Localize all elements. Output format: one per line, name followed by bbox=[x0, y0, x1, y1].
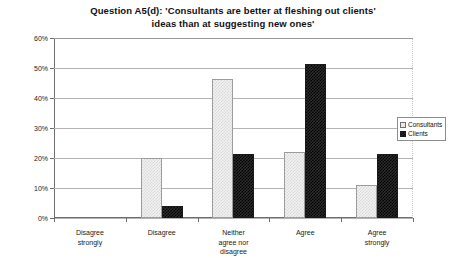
bar-group bbox=[269, 38, 341, 218]
x-tick-mark bbox=[341, 218, 342, 222]
chart-title-line-1: Question A5(d): 'Consultants are better … bbox=[40, 5, 426, 18]
x-tick-mark bbox=[54, 218, 55, 222]
bar-clients-2 bbox=[233, 154, 254, 219]
x-category-label-line: strongly bbox=[54, 238, 126, 248]
legend-swatch-consultants-icon bbox=[400, 122, 406, 128]
bar-group bbox=[126, 38, 198, 218]
x-category-label-line: Disagree bbox=[54, 228, 126, 238]
x-category-label: Agreestrongly bbox=[341, 228, 413, 247]
x-category-label-line: Neither bbox=[198, 228, 270, 238]
x-category-label-line: agree nor bbox=[198, 238, 270, 248]
chart-title-line-2: ideas than at suggesting new ones' bbox=[40, 18, 426, 31]
bar-clients-3 bbox=[305, 64, 326, 219]
x-tick-mark bbox=[269, 218, 270, 222]
bar-consultants-1 bbox=[141, 158, 162, 218]
bar-chart-figure: Question A5(d): 'Consultants are better … bbox=[0, 0, 466, 258]
x-category-label: Disagreestrongly bbox=[54, 228, 126, 247]
legend-swatch-clients-icon bbox=[400, 131, 406, 137]
y-tick-label: 20% bbox=[34, 155, 48, 162]
legend-label: Consultants bbox=[408, 120, 442, 129]
y-tick-label: 60% bbox=[34, 35, 48, 42]
bar-clients-4 bbox=[377, 154, 398, 219]
bar-consultants-3 bbox=[284, 152, 305, 218]
y-tick-label: 30% bbox=[34, 125, 48, 132]
x-category-label: Agree bbox=[269, 228, 341, 238]
x-tick-mark bbox=[413, 218, 414, 222]
bar-group bbox=[198, 38, 270, 218]
x-category-label: Disagree bbox=[126, 228, 198, 238]
x-category-label-line: Agree bbox=[269, 228, 341, 238]
x-category-label: Neitheragree nordisagree bbox=[198, 228, 270, 257]
bar-group bbox=[54, 38, 126, 218]
y-tick-label: 0% bbox=[38, 215, 48, 222]
bar-clients-1 bbox=[162, 206, 183, 218]
x-category-label-line: disagree bbox=[198, 247, 270, 257]
y-tick-label: 10% bbox=[34, 185, 48, 192]
x-category-label-line: Disagree bbox=[126, 228, 198, 238]
chart-legend: ConsultantsClients bbox=[397, 117, 446, 141]
bar-consultants-2 bbox=[212, 79, 233, 219]
legend-entry-clients: Clients bbox=[400, 129, 442, 138]
bars-layer bbox=[54, 38, 413, 218]
x-category-label-line: Agree bbox=[341, 228, 413, 238]
chart-title: Question A5(d): 'Consultants are better … bbox=[40, 5, 426, 30]
x-tick-mark bbox=[126, 218, 127, 222]
legend-entry-consultants: Consultants bbox=[400, 120, 442, 129]
x-tick-mark bbox=[198, 218, 199, 222]
x-category-label-line: strongly bbox=[341, 238, 413, 248]
y-tick-label: 50% bbox=[34, 65, 48, 72]
legend-label: Clients bbox=[408, 129, 428, 138]
y-tick-label: 40% bbox=[34, 95, 48, 102]
plot-area: 0%10%20%30%40%50%60% DisagreestronglyDis… bbox=[54, 38, 413, 218]
bar-consultants-4 bbox=[356, 185, 377, 218]
gridline bbox=[54, 218, 413, 219]
